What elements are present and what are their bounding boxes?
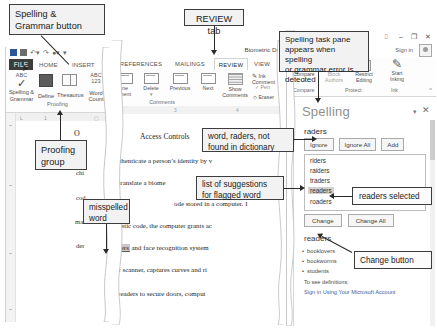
add-button[interactable]: Add — [381, 138, 404, 151]
eraser-label: Eraser — [258, 94, 274, 100]
start-inking-pen-icon: ✎ — [385, 58, 409, 70]
synonym-item-1: bookworms — [307, 258, 337, 264]
define-label: Define — [36, 93, 56, 99]
definition-note: To see definitions: — [304, 279, 349, 285]
show-comments-button[interactable]: ShowComments — [221, 73, 249, 98]
suggestion-item-2[interactable]: traders — [310, 177, 330, 184]
arrowhead-misspelled-word — [103, 249, 109, 254]
minimize-icon[interactable]: – — [399, 33, 403, 40]
leader-task-pane-note — [318, 72, 319, 99]
define-icon — [39, 74, 53, 87]
doc-line-1: chi — [76, 169, 84, 176]
delete-comment-button[interactable]: Delete ▾ — [139, 73, 163, 97]
callout-change-button: Change button — [354, 251, 432, 269]
ignore-button-row: Ignore Ignore All Add — [304, 138, 404, 151]
start-inking-label: StartInking — [385, 70, 409, 82]
callout-task-pane-note: Spelling task paneappears when spellingo… — [279, 31, 369, 72]
leader-misspelled-word — [106, 224, 107, 250]
tab-home[interactable]: HOME — [39, 59, 58, 70]
thesaurus-book-icon — [62, 74, 77, 86]
suggestion-item-1[interactable]: raiders — [310, 167, 330, 174]
spelling-grammar-button[interactable]: ABC ✓ Spelling &Grammar — [8, 72, 35, 102]
previous-comment-button[interactable]: Previous — [166, 73, 194, 91]
doc-heading: Access Controls — [140, 133, 190, 141]
comments-group-label: Comments — [112, 99, 248, 105]
callout-proofing-group: Proofinggroup — [35, 140, 87, 170]
pane-dropdown-icon[interactable]: ▾ — [413, 108, 417, 116]
next-comment-label: Next — [197, 85, 219, 91]
ignore-all-button[interactable]: Ignore All — [339, 138, 377, 151]
doc-body-line-2: ode stored in a computer. I — [174, 200, 247, 208]
doc-line-4: der — [76, 242, 84, 249]
protect-group-label: Protect — [345, 87, 361, 93]
callout-review-tab: REVIEW tab — [184, 9, 244, 26]
avatar[interactable] — [419, 44, 432, 57]
leader-word-not-found — [294, 139, 313, 140]
start-inking-button[interactable]: ✎ StartInking — [385, 58, 409, 82]
tab-view[interactable]: VIEW — [249, 58, 275, 70]
flagged-word: raders — [304, 127, 327, 136]
restore-icon[interactable]: ❐ — [411, 33, 417, 41]
previous-comment-label: Previous — [166, 85, 194, 91]
change-all-button[interactable]: Change All — [348, 214, 394, 227]
thesaurus-label: Thesaurus — [57, 92, 82, 98]
synonym-item-2: students — [307, 268, 329, 274]
tab-mailings[interactable]: MAILINGS — [170, 58, 210, 70]
sign-in-microsoft-link[interactable]: Sign in Using Your Microsoft Account — [304, 289, 395, 295]
left-vertical-ruler — [6, 113, 16, 322]
next-comment-icon — [201, 73, 216, 84]
callout-misspelled-word: misspelledword — [83, 199, 130, 224]
pane-title: Spelling — [302, 104, 350, 119]
leader-readers-selected — [333, 196, 353, 197]
customize-qat-icon[interactable]: ▾ — [63, 49, 67, 56]
suggestion-item-0[interactable]: riders — [310, 157, 326, 164]
left-ribbon-body: ABC ✓ Spelling &Grammar Define Thesaurus… — [6, 70, 109, 113]
change-button[interactable]: Change — [304, 214, 342, 227]
define-button[interactable]: Define — [36, 74, 56, 99]
doc-line-3: ma — [75, 218, 83, 225]
torn-edge-mid-left — [112, 40, 128, 325]
pane-close-icon[interactable]: ✕ — [422, 105, 430, 115]
arrowhead-readers-selected — [329, 193, 334, 199]
pane-scrollbar[interactable] — [430, 120, 435, 326]
change-button-row: Change Change All — [304, 214, 394, 227]
undo-icon[interactable]: ↶▾ — [30, 49, 40, 56]
eraser-icon: ◇ — [253, 94, 257, 100]
synonym-item-0: booklovers — [307, 248, 335, 254]
arrowhead-list-of-suggestions — [300, 185, 305, 191]
mid-ribbon-body: nement Delete ▾ Previous Next ShowCommen… — [112, 70, 284, 107]
callout-spelling-grammar-button: Spelling &Grammar button — [9, 4, 105, 35]
suggestion-item-4[interactable]: roaders — [310, 198, 332, 205]
ribbon-display-options-icon[interactable]: ⌷ — [384, 33, 388, 41]
redo-icon[interactable]: ↷ — [43, 49, 49, 56]
delete-comment-icon — [144, 73, 159, 84]
show-comments-icon — [228, 73, 243, 85]
pen-label: Pen — [260, 84, 269, 90]
show-comments-label: ShowComments — [221, 86, 249, 98]
leader-list-of-suggestions — [284, 188, 301, 189]
collapse-ribbon-icon[interactable]: ^ — [429, 87, 432, 93]
next-comment-button[interactable]: Next — [197, 73, 219, 91]
arrowhead-word-not-found — [312, 136, 317, 142]
arrowhead-review-tab — [211, 50, 217, 55]
thesaurus-button[interactable]: Thesaurus — [57, 74, 82, 98]
save-icon[interactable] — [20, 49, 27, 56]
word-logo-icon — [10, 49, 17, 56]
delete-dropdown-icon[interactable]: ▾ — [139, 91, 163, 97]
ink-group-label: Ink — [391, 87, 398, 93]
restrict-editing-label: RestrictEditing — [350, 71, 378, 83]
callout-word-not-found: word, raders, notfound in dictionary — [202, 128, 294, 152]
torn-edge-left-panel — [97, 47, 109, 322]
screenshot-root: ↶▾ ↷ ●▾ ▾ FILE HOME INSERT ABC ✓ Spellin… — [0, 0, 437, 330]
pen-icon: ✓ — [255, 84, 259, 90]
tab-insert[interactable]: INSERT — [72, 59, 95, 70]
sign-in-button[interactable]: Sign in — [395, 47, 413, 53]
arrowhead-proofing-group — [57, 110, 63, 115]
callout-list-of-suggestions: list of suggestionsfor flagged word — [196, 176, 284, 200]
previous-comment-icon — [173, 73, 188, 84]
arrowhead-task-pane-note — [315, 98, 321, 103]
mid-ruler-tick-3: 3 — [174, 108, 177, 113]
doc-line-0: O — [74, 129, 80, 138]
mid-ribbon-tabs: REFERENCES MAILINGS REVIEW VIEW — [112, 58, 284, 70]
close-icon[interactable]: ✕ — [425, 33, 431, 41]
